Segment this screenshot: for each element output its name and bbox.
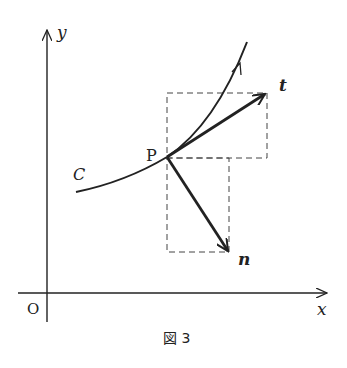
figure-caption: 図 3 [163,330,190,346]
curve-c [76,42,247,192]
curve-c-label: C [73,165,85,184]
point-p-label: P [146,146,157,165]
curve-frame-diagram: y x O P C t n 図 3 [0,0,347,368]
normal-label-n: n [238,249,250,269]
tangent-label-t: t [279,75,287,95]
x-axis-label: x [317,299,327,319]
normal-vector-n [167,157,228,251]
y-axis-label: y [56,22,67,42]
origin-label: O [27,300,39,318]
